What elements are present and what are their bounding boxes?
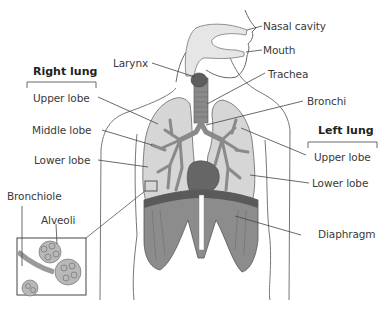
label-nasal-cavity: Nasal cavity xyxy=(263,21,326,32)
label-trachea: Trachea xyxy=(268,69,308,80)
label-diaphragm: Diaphragm xyxy=(318,229,376,240)
larynx-shape xyxy=(191,73,207,87)
label-left-lower-lobe: Lower lobe xyxy=(312,178,368,189)
left-lung-bracket xyxy=(308,142,377,148)
label-bronchi: Bronchi xyxy=(307,96,346,107)
heading-right-lung: Right lung xyxy=(33,66,97,77)
label-right-lower-lobe: Lower lobe xyxy=(34,155,90,166)
label-right-upper-lobe: Upper lobe xyxy=(33,93,90,104)
heading-left-lung: Left lung xyxy=(318,125,374,136)
label-alveoli: Alveoli xyxy=(41,215,75,226)
label-left-upper-lobe: Upper lobe xyxy=(314,152,371,163)
label-bronchiole: Bronchiole xyxy=(7,191,62,202)
label-larynx: Larynx xyxy=(113,58,148,69)
label-right-middle-lobe: Middle lobe xyxy=(32,125,91,136)
right-lung-bracket xyxy=(27,82,96,88)
nasal-airway xyxy=(185,24,247,76)
label-mouth: Mouth xyxy=(263,45,295,56)
